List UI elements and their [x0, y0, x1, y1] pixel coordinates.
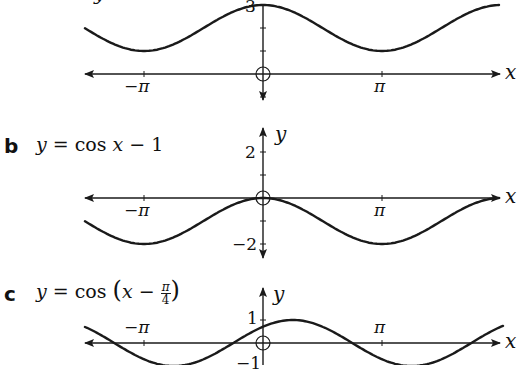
panel-c-ytick-1: 1 — [247, 308, 258, 328]
eq-var-x: x — [122, 280, 133, 302]
eq-tail: − 1 — [123, 133, 163, 155]
eq-var-x: x — [113, 133, 124, 155]
panel-c-x-axis-label: x — [505, 329, 516, 353]
panel-c-y-axis-label: y — [273, 282, 284, 306]
eq-minus: − — [133, 280, 161, 302]
eq-var-y: y — [36, 133, 47, 155]
panel-c-letter: c — [4, 282, 16, 306]
panel-c-equation: y = cos (x − π4) — [36, 276, 180, 306]
panel-c-ytick-neg1: −1 — [236, 353, 261, 373]
panel-b-equation: y = cos x − 1 — [36, 133, 163, 155]
panel-a-ytick-3: 3 — [245, 0, 256, 16]
eq-frac-den: 4 — [161, 294, 171, 306]
panel-b-x-axis-label: x — [505, 184, 516, 208]
panel-c-xtick-neg-pi: −π — [124, 317, 149, 337]
eq-paren-close: ) — [171, 276, 180, 304]
panel-b-xtick-pi: π — [374, 200, 385, 220]
eq-var-y: y — [36, 280, 47, 302]
eq-cos: = cos — [47, 133, 113, 155]
panel-b-letter: b — [4, 134, 18, 158]
panel-c-xtick-pi: π — [374, 317, 385, 337]
eq-paren-open: ( — [113, 276, 122, 304]
panel-b-y-axis-label: y — [275, 122, 286, 146]
panel-b-ytick-neg2: −2 — [232, 234, 257, 254]
panel-a-curve — [85, 5, 499, 51]
eq-fraction: π4 — [161, 281, 171, 306]
panel-a-xtick-pi: π — [374, 76, 385, 96]
eq-cos: = cos — [47, 280, 113, 302]
eq-frac-num: π — [161, 281, 171, 294]
panel-b-ytick-2: 2 — [245, 142, 256, 162]
panel-a-x-axis-label: x — [505, 60, 516, 84]
panel-a-equation-fragment: y — [94, 0, 105, 4]
panel-b-xtick-neg-pi: −π — [124, 200, 149, 220]
panel-a-xtick-neg-pi: −π — [124, 76, 149, 96]
